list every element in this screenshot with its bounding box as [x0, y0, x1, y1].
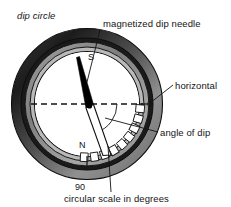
- label-scale-ninety: 90: [75, 182, 85, 193]
- label-magnetized-dip-needle: magnetized dip needle: [103, 18, 201, 29]
- needle-pivot: [87, 103, 92, 108]
- label-angle-of-dip: angle of dip: [160, 127, 210, 138]
- label-circular-scale: circular scale in degrees: [64, 193, 169, 204]
- figure-title: dip circle: [17, 10, 56, 21]
- label-horizontal: horizontal: [175, 80, 217, 91]
- label-compass-north: N: [79, 140, 86, 151]
- dip-circle-figure: dip circle magnetized dip needle horizon…: [0, 0, 231, 207]
- label-scale-zero: 0: [147, 99, 152, 110]
- dip-circle-svg: [0, 0, 231, 207]
- label-compass-south: S: [88, 52, 94, 63]
